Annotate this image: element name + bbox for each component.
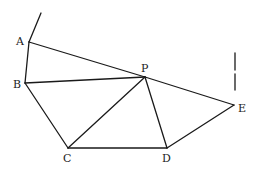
segment-cp: [68, 77, 145, 148]
label-a: A: [15, 35, 25, 48]
label-e: E: [238, 102, 246, 115]
segment-bp: [25, 77, 145, 83]
geometry-diagram: A B P C D E: [0, 0, 255, 173]
segment-ap: [29, 42, 145, 77]
label-c: C: [63, 152, 71, 165]
label-b: B: [13, 78, 21, 91]
segment-bc: [25, 83, 68, 148]
label-p: P: [141, 62, 149, 75]
segment-pe: [145, 77, 234, 105]
segment-ab: [25, 42, 29, 83]
ray-from-a: [29, 13, 41, 42]
segment-pd: [145, 77, 167, 148]
segment-de: [167, 105, 234, 148]
label-d: D: [162, 152, 171, 165]
